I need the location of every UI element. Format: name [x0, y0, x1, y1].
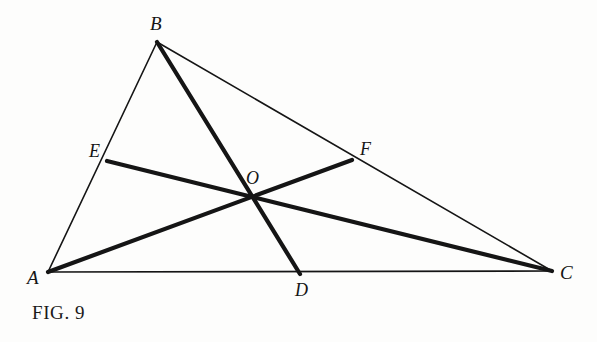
segment-cevian-BD: [157, 42, 300, 274]
segment-cevian-CE: [107, 161, 552, 271]
vertex-label-b: B: [150, 14, 162, 33]
vertex-label-c: C: [560, 263, 573, 282]
vertex-label-a: A: [27, 268, 39, 287]
point-label-f: F: [360, 140, 371, 158]
point-label-e: E: [89, 142, 100, 160]
segment-side-BC: [157, 42, 552, 271]
point-label-o: O: [246, 169, 259, 187]
figure-canvas: A B C D E F O FIG. 9: [0, 0, 597, 342]
point-label-d: D: [295, 281, 308, 299]
figure-caption: FIG. 9: [32, 303, 85, 322]
